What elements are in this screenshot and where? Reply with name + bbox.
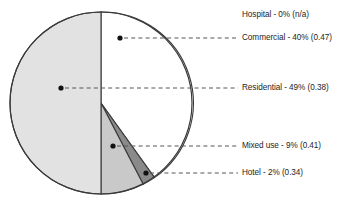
- pie-chart-figure: Hospital - 0% (n/a) Commercial - 40% (0.…: [0, 0, 340, 206]
- marker-dot-commercial: [117, 35, 122, 40]
- pie-label-commercial: Commercial - 40% (0.47): [242, 33, 332, 43]
- pie-label-hospital: Hospital - 0% (n/a): [242, 10, 309, 20]
- pie-label-residential: Residential - 49% (0.38): [242, 83, 329, 93]
- pie-label-mixed-use: Mixed use - 9% (0.41): [242, 141, 321, 151]
- marker-dot-hotel: [143, 170, 148, 175]
- marker-dot-mixed-use: [110, 143, 115, 148]
- marker-dot-residential: [58, 85, 63, 90]
- pie-label-hotel: Hotel - 2% (0.34): [242, 168, 303, 178]
- pie-slice-residential[interactable]: [10, 12, 101, 194]
